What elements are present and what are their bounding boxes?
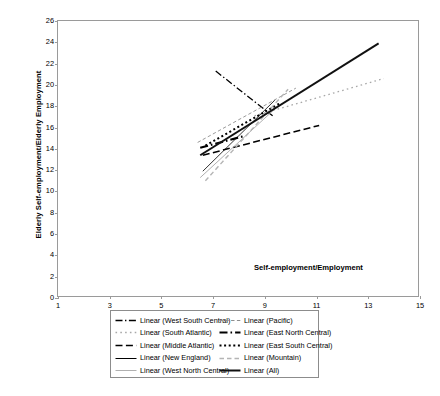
series-line-west-north-central bbox=[200, 106, 278, 177]
legend-item-mountain[interactable]: Linear (Mountain) bbox=[219, 354, 319, 363]
chart-legend: Linear (West South Central)Linear (Pacif… bbox=[110, 310, 319, 378]
y-tick-label: 18 bbox=[46, 103, 54, 110]
y-tick-mark bbox=[55, 277, 58, 278]
series-line-new-england bbox=[203, 100, 275, 171]
legend-item-pacific[interactable]: Linear (Pacific) bbox=[219, 316, 319, 325]
legend-item-all[interactable]: Linear (All) bbox=[219, 366, 319, 375]
y-tick-label: 20 bbox=[46, 81, 54, 88]
legend-swatch-mountain bbox=[219, 354, 241, 363]
y-tick-label: 6 bbox=[50, 230, 54, 237]
x-tick-label: 11 bbox=[313, 302, 321, 309]
y-tick-label: 26 bbox=[46, 17, 54, 24]
legend-label-all: Linear (All) bbox=[244, 367, 279, 374]
y-tick-mark bbox=[55, 170, 58, 171]
legend-swatch-middle-atlantic bbox=[115, 341, 137, 350]
legend-swatch-pacific bbox=[219, 316, 241, 325]
legend-swatch-west-north-central bbox=[115, 366, 137, 375]
legend-label-east-south-central: Linear (East South Central) bbox=[244, 342, 332, 349]
x-tick-mark bbox=[213, 296, 214, 299]
plot-area: 02468101214161820222426 13579111315 bbox=[57, 20, 419, 297]
y-tick-label: 8 bbox=[50, 209, 54, 216]
legend-label-pacific: Linear (Pacific) bbox=[244, 317, 293, 324]
y-tick-label: 10 bbox=[46, 188, 54, 195]
y-tick-mark bbox=[55, 64, 58, 65]
y-tick-label: 0 bbox=[50, 294, 54, 301]
y-tick-label: 24 bbox=[46, 39, 54, 46]
legend-swatch-west-south-central bbox=[115, 316, 137, 325]
x-tick-label: 5 bbox=[159, 302, 163, 309]
legend-item-middle-atlantic[interactable]: Linear (Middle Atlantic) bbox=[115, 341, 219, 350]
x-tick-label: 9 bbox=[263, 302, 267, 309]
x-tick-mark bbox=[420, 296, 421, 299]
x-tick-mark bbox=[110, 296, 111, 299]
legend-swatch-east-south-central bbox=[219, 341, 241, 350]
legend-label-middle-atlantic: Linear (Middle Atlantic) bbox=[140, 342, 214, 349]
legend-item-west-south-central[interactable]: Linear (West South Central) bbox=[115, 316, 219, 325]
x-tick-label: 3 bbox=[108, 302, 112, 309]
legend-item-new-england[interactable]: Linear (New England) bbox=[115, 354, 219, 363]
series-line-mountain bbox=[205, 89, 288, 181]
y-tick-label: 16 bbox=[46, 124, 54, 131]
y-tick-label: 22 bbox=[46, 60, 54, 67]
legend-swatch-all bbox=[219, 366, 241, 375]
y-tick-label: 2 bbox=[50, 273, 54, 280]
legend-item-east-south-central[interactable]: Linear (East South Central) bbox=[219, 341, 319, 350]
y-tick-mark bbox=[55, 255, 58, 256]
x-tick-label: 1 bbox=[56, 302, 60, 309]
x-tick-label: 7 bbox=[211, 302, 215, 309]
legend-label-west-north-central: Linear (West North Central) bbox=[140, 367, 229, 374]
series-lines bbox=[58, 21, 420, 298]
y-tick-mark bbox=[55, 213, 58, 214]
legend-label-south-atlantic: Linear (South Atlantic) bbox=[140, 329, 212, 336]
x-tick-mark bbox=[317, 296, 318, 299]
legend-item-east-north-central[interactable]: Linear (East North Central) bbox=[219, 328, 319, 337]
y-tick-label: 14 bbox=[46, 145, 54, 152]
y-tick-mark bbox=[55, 149, 58, 150]
y-axis-title: Elderly Self-employment/Elderly Employme… bbox=[34, 25, 43, 285]
x-tick-mark bbox=[58, 296, 59, 299]
legend-label-west-south-central: Linear (West South Central) bbox=[140, 317, 230, 324]
y-tick-mark bbox=[55, 21, 58, 22]
x-tick-label: 15 bbox=[416, 302, 424, 309]
legend-label-new-england: Linear (New England) bbox=[140, 354, 211, 361]
y-tick-mark bbox=[55, 42, 58, 43]
legend-swatch-south-atlantic bbox=[115, 328, 137, 337]
legend-item-south-atlantic[interactable]: Linear (South Atlantic) bbox=[115, 328, 219, 337]
series-line-west-south-central bbox=[216, 71, 273, 116]
x-axis-title: Self-employment/Employment bbox=[254, 263, 363, 272]
y-tick-label: 4 bbox=[50, 252, 54, 259]
x-tick-mark bbox=[265, 296, 266, 299]
legend-label-east-north-central: Linear (East North Central) bbox=[244, 329, 331, 336]
y-tick-mark bbox=[55, 191, 58, 192]
x-tick-mark bbox=[368, 296, 369, 299]
x-tick-label: 13 bbox=[364, 302, 372, 309]
legend-item-west-north-central[interactable]: Linear (West North Central) bbox=[115, 366, 219, 375]
series-line-all bbox=[200, 43, 378, 155]
y-tick-mark bbox=[55, 128, 58, 129]
y-tick-mark bbox=[55, 85, 58, 86]
legend-label-mountain: Linear (Mountain) bbox=[244, 354, 301, 361]
legend-swatch-new-england bbox=[115, 354, 137, 363]
chart-canvas: Elderly Self-employment/Elderly Employme… bbox=[0, 0, 440, 396]
y-tick-mark bbox=[55, 106, 58, 107]
y-tick-mark bbox=[55, 234, 58, 235]
x-tick-mark bbox=[161, 296, 162, 299]
legend-swatch-east-north-central bbox=[219, 328, 241, 337]
y-tick-label: 12 bbox=[46, 166, 54, 173]
